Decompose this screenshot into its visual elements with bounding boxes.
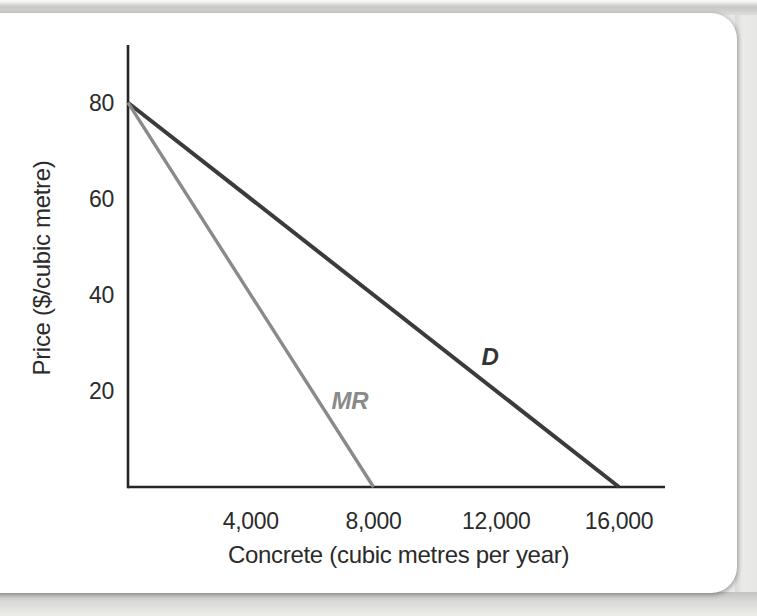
y-tick-label: 80 (89, 90, 114, 116)
chart-canvas: 4,0008,00012,00016,00020406080Concrete (… (0, 0, 757, 616)
marginal-revenue-curve (128, 103, 374, 487)
y-tick-label: 40 (89, 282, 114, 308)
demand-curve (128, 103, 619, 487)
page: 4,0008,00012,00016,00020406080Concrete (… (0, 0, 757, 616)
y-tick-label: 20 (89, 378, 114, 404)
demand-curve-label: D (482, 343, 499, 370)
x-tick-label: 16,000 (585, 508, 654, 534)
x-axis-title: Concrete (cubic metres per year) (228, 541, 569, 568)
x-tick-label: 8,000 (345, 508, 401, 534)
x-tick-label: 4,000 (223, 508, 279, 534)
y-tick-label: 60 (89, 186, 114, 212)
x-tick-label: 12,000 (462, 508, 531, 534)
marginal-revenue-curve-label: MR (331, 387, 369, 414)
y-axis-title: Price ($/cubic metre) (28, 160, 55, 375)
